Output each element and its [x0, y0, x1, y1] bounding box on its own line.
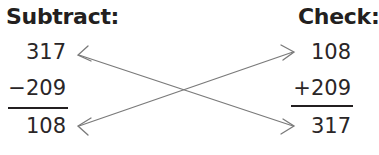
arrowhead-right-bottom-icon [281, 119, 294, 134]
arrowhead-left-bottom-icon [78, 118, 91, 135]
